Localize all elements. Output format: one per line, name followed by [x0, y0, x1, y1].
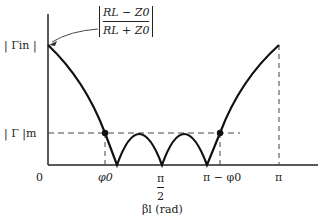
x-label-phi0: φ0 — [98, 172, 113, 183]
marker-phi0 — [102, 130, 108, 136]
annotation-formula: RL − Z0 RL + Z0 — [99, 6, 153, 37]
marker-pi-minus-phi0 — [217, 130, 223, 136]
annot-numerator: RL − Z0 — [103, 6, 149, 19]
y-label-gamma-in: | Γin | — [4, 40, 37, 51]
x-label-zero: 0 — [36, 172, 43, 183]
x-label-pi-minus-phi0: π − φ0 — [203, 172, 241, 183]
annotation-arrow — [52, 29, 98, 42]
x-label-pi: π — [275, 172, 282, 183]
reflection-curve — [48, 45, 279, 165]
y-label-gamma-m: | Γ |m — [4, 128, 36, 139]
annot-denominator: RL + Z0 — [103, 24, 149, 37]
x-axis-title: βl (rad) — [142, 204, 183, 215]
x-label-pi-half: π 2 — [157, 172, 164, 203]
